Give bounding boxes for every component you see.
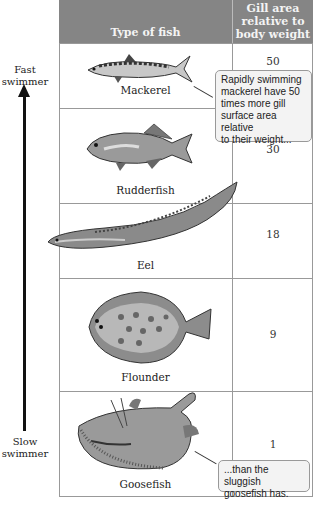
speed-arrow-shaft <box>23 94 26 431</box>
eel-icon <box>45 180 240 255</box>
callout-line: ...than the sluggish <box>224 464 304 488</box>
callout-line: Rapidly swimming <box>221 74 306 86</box>
flounder-icon <box>81 287 216 367</box>
callout-line: times more gill <box>221 98 306 110</box>
goosefish-icon <box>71 386 211 474</box>
fish-name: Goosefish <box>59 478 232 490</box>
gill-value: 9 <box>233 328 313 340</box>
gill-value: 18 <box>233 228 313 240</box>
header-gill-area: Gill area relative to body weight <box>233 2 313 41</box>
mackerel-icon <box>84 52 194 88</box>
fast-label-line1: Fast <box>0 64 50 76</box>
callout-line: surface area relative <box>221 110 306 134</box>
fish-name: Eel <box>59 259 232 271</box>
callout-mackerel: Rapidly swimming mackerel have 50 times … <box>215 70 312 142</box>
table-header: Type of fish Gill area relative to body … <box>59 0 313 43</box>
header-gill-line3: body weight <box>233 28 313 41</box>
fish-name: Flounder <box>59 371 232 383</box>
gill-value: 50 <box>233 55 313 67</box>
gill-value: 1 <box>233 438 313 450</box>
callout-line: mackerel have 50 <box>221 86 306 98</box>
callout-line: to their weight... <box>221 134 306 146</box>
slow-swimmer-label: Slow swimmer <box>0 436 50 460</box>
callout-line: goosefish has. <box>224 488 304 500</box>
slow-label-line2: swimmer <box>0 448 50 460</box>
header-gill-line1: Gill area <box>233 2 313 15</box>
slow-label-line1: Slow <box>0 436 50 448</box>
header-gill-line2: relative to <box>233 15 313 28</box>
rudderfish-icon <box>84 121 199 176</box>
header-type-of-fish: Type of fish <box>59 26 232 39</box>
callout-goosefish: ...than the sluggish goosefish has. <box>218 460 310 492</box>
table-row-flounder: Flounder 9 <box>59 278 313 391</box>
